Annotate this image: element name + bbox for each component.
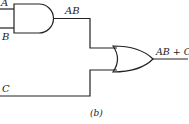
label-input-c: C bbox=[2, 83, 10, 94]
label-input-a: A bbox=[0, 0, 8, 8]
label-input-b: B bbox=[1, 31, 9, 42]
label-and-output: AB bbox=[64, 5, 80, 16]
or-gate bbox=[113, 46, 153, 72]
wire-and-output bbox=[54, 19, 118, 49]
logic-circuit: A B AB AB + C C (b) bbox=[0, 0, 189, 124]
figure-caption: (b) bbox=[90, 108, 103, 118]
wire-input-c bbox=[0, 70, 117, 96]
and-gate bbox=[14, 4, 53, 33]
label-or-output: AB + C bbox=[155, 46, 189, 57]
